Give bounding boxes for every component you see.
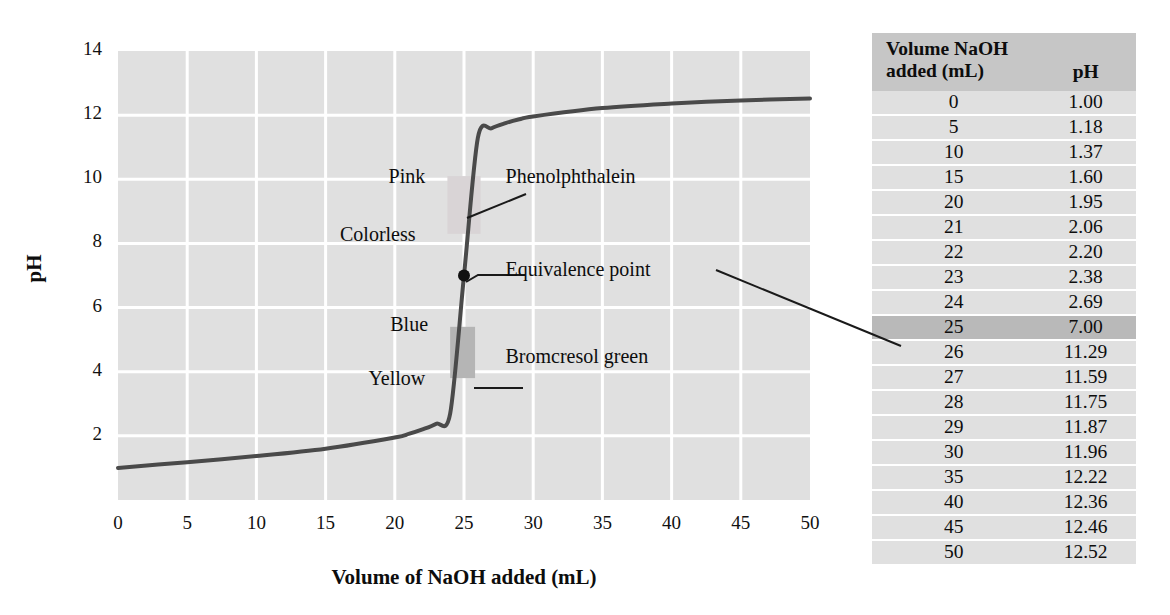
- column-header-volume-line1: Volume NaOH: [886, 38, 1031, 60]
- table-row: 2811.75: [872, 390, 1136, 415]
- cell-ph: 1.18: [1035, 115, 1136, 140]
- cell-volume: 15: [872, 165, 1035, 190]
- table-row: 151.60: [872, 165, 1136, 190]
- cell-volume: 20: [872, 190, 1035, 215]
- y-axis-tick-label: 8: [44, 230, 102, 252]
- cell-ph: 1.00: [1035, 91, 1136, 115]
- cell-volume: 22: [872, 240, 1035, 265]
- cell-ph: 1.95: [1035, 190, 1136, 215]
- table-row: 2611.29: [872, 340, 1136, 365]
- y-axis-tick-label: 6: [44, 295, 102, 317]
- cell-ph: 12.22: [1035, 465, 1136, 490]
- cell-volume: 23: [872, 265, 1035, 290]
- x-axis-tick-label: 0: [88, 512, 148, 534]
- table-row: 257.00: [872, 315, 1136, 340]
- table-row: 101.37: [872, 140, 1136, 165]
- table-row: 232.38: [872, 265, 1136, 290]
- table-row: 51.18: [872, 115, 1136, 140]
- cell-ph: 11.96: [1035, 440, 1136, 465]
- cell-ph: 2.20: [1035, 240, 1136, 265]
- table-row: 2911.87: [872, 415, 1136, 440]
- cell-ph: 12.52: [1035, 540, 1136, 565]
- column-header-volume-line2: added (mL): [886, 60, 1031, 82]
- y-axis-tick-label: 10: [44, 166, 102, 188]
- table-row: 242.69: [872, 290, 1136, 315]
- cell-ph: 2.38: [1035, 265, 1136, 290]
- cell-volume: 10: [872, 140, 1035, 165]
- cell-volume: 27: [872, 365, 1035, 390]
- cell-ph: 11.75: [1035, 390, 1136, 415]
- x-axis-tick-label: 15: [296, 512, 356, 534]
- x-axis-tick-label: 45: [711, 512, 771, 534]
- x-axis-tick-label: 30: [503, 512, 563, 534]
- cell-volume: 26: [872, 340, 1035, 365]
- y-axis-title: pH: [22, 247, 47, 291]
- cell-volume: 40: [872, 490, 1035, 515]
- table-row: 5012.52: [872, 540, 1136, 565]
- table-row: 01.00: [872, 91, 1136, 115]
- cell-ph: 11.87: [1035, 415, 1136, 440]
- cell-ph: 11.59: [1035, 365, 1136, 390]
- y-axis-tick-label: 14: [44, 38, 102, 60]
- table-row: 3512.22: [872, 465, 1136, 490]
- cell-ph: 7.00: [1035, 315, 1136, 340]
- table-body: 01.0051.18101.37151.60201.95212.06222.20…: [872, 91, 1136, 565]
- table-header-row: Volume NaOH added (mL) pH: [872, 33, 1136, 91]
- annotation-yellow: Yellow: [368, 367, 425, 390]
- y-axis-tick-label: 12: [44, 102, 102, 124]
- ph-data-table: Volume NaOH added (mL) pH 01.0051.18101.…: [872, 33, 1136, 566]
- cell-volume: 29: [872, 415, 1035, 440]
- cell-volume: 45: [872, 515, 1035, 540]
- x-axis-title: Volume of NaOH added (mL): [118, 565, 810, 590]
- annotation-bromcresol-green: Bromcresol green: [506, 345, 649, 368]
- cell-ph: 1.37: [1035, 140, 1136, 165]
- cell-volume: 21: [872, 215, 1035, 240]
- y-axis-tick-label: 2: [44, 423, 102, 445]
- cell-volume: 35: [872, 465, 1035, 490]
- cell-volume: 24: [872, 290, 1035, 315]
- annotation-blue: Blue: [390, 313, 428, 336]
- table-row: 212.06: [872, 215, 1136, 240]
- chart: pH Volume of NaOH added (mL) 05101520253…: [0, 0, 860, 615]
- column-header-ph: pH: [1035, 33, 1136, 91]
- table-row: 201.95: [872, 190, 1136, 215]
- cell-volume: 28: [872, 390, 1035, 415]
- y-axis-tick-label: 4: [44, 359, 102, 381]
- cell-volume: 0: [872, 91, 1035, 115]
- cell-ph: 11.29: [1035, 340, 1136, 365]
- table-head: Volume NaOH added (mL) pH: [872, 33, 1136, 91]
- cell-volume: 5: [872, 115, 1035, 140]
- x-axis-tick-label: 35: [572, 512, 632, 534]
- annotation-colorless: Colorless: [340, 223, 416, 246]
- table-row: 4012.36: [872, 490, 1136, 515]
- x-axis-tick-label: 10: [226, 512, 286, 534]
- annotation-equivalence-point: Equivalence point: [506, 258, 651, 281]
- x-axis-tick-label: 25: [434, 512, 494, 534]
- cell-ph: 12.46: [1035, 515, 1136, 540]
- x-axis-tick-label: 50: [780, 512, 840, 534]
- table-row: 222.20: [872, 240, 1136, 265]
- annotation-pink: Pink: [389, 165, 426, 188]
- cell-volume: 25: [872, 315, 1035, 340]
- annotation-phenolphthalein: Phenolphthalein: [506, 165, 636, 188]
- x-axis-tick-label: 40: [642, 512, 702, 534]
- cell-ph: 2.69: [1035, 290, 1136, 315]
- cell-ph: 12.36: [1035, 490, 1136, 515]
- x-axis-tick-label: 20: [365, 512, 425, 534]
- table-row: 3011.96: [872, 440, 1136, 465]
- cell-ph: 1.60: [1035, 165, 1136, 190]
- cell-volume: 50: [872, 540, 1035, 565]
- cell-ph: 2.06: [1035, 215, 1136, 240]
- column-header-volume: Volume NaOH added (mL): [872, 33, 1035, 91]
- x-axis-tick-label: 5: [157, 512, 217, 534]
- phenolphthalein-band: [447, 176, 480, 234]
- cell-volume: 30: [872, 440, 1035, 465]
- table-row: 2711.59: [872, 365, 1136, 390]
- table-row: 4512.46: [872, 515, 1136, 540]
- titration-curve-figure: pH Volume of NaOH added (mL) 05101520253…: [0, 0, 1170, 615]
